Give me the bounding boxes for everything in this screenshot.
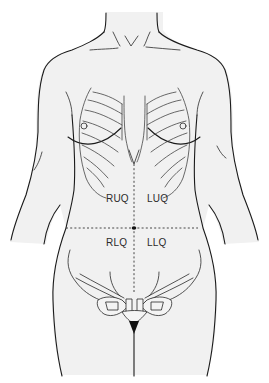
abdominal-quadrants-diagram: RUQ LUQ RLQ LLQ — [0, 0, 269, 383]
umbilicus-marker — [132, 226, 137, 230]
quadrant-label-llq: LLQ — [147, 238, 167, 248]
quadrant-label-ruq: RUQ — [106, 194, 129, 204]
neck-left-contour — [104, 13, 106, 32]
quadrant-label-rlq: RLQ — [106, 238, 127, 248]
torso-illustration — [0, 0, 269, 383]
quadrant-label-luq: LUQ — [147, 194, 168, 204]
